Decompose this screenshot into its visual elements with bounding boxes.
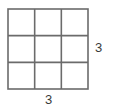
grid-cell [61,36,88,63]
grid-cell [8,62,35,89]
side-length-label-right: 3 [95,41,102,54]
square-grid-diagram: 3 3 [0,0,113,110]
grid-cell [8,36,35,63]
grid-cell [35,9,62,36]
grid-cell [35,62,62,89]
grid-cell [61,9,88,36]
grid-cell [61,62,88,89]
grid-cell [35,36,62,63]
grid-cells [8,9,88,89]
grid-figure [0,0,113,110]
grid-cell [8,9,35,36]
side-length-label-bottom: 3 [45,93,52,106]
